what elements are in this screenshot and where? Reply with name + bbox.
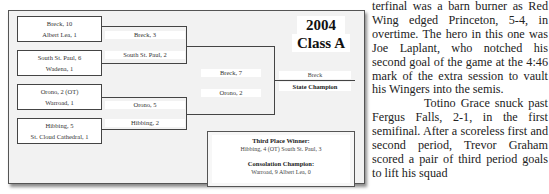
team-winner: Breck, 10 [18,20,101,28]
third-place-heading: Third Place Winner: [212,137,350,144]
quarterfinal-3: Orono, 2 (OT) Warroad, 1 [17,84,102,110]
team-winner: South St. Paul, 6 [18,54,101,62]
bracket-line [102,97,187,98]
team-loser: Warroad, 1 [18,99,101,107]
bracket-line [102,26,187,27]
article-column: terfinal was a barn burner as Red Wing e… [372,0,548,181]
champion-label: State Champion [279,82,351,91]
consolation-result: Warroad, 9 Albert Lea, 0 [212,169,350,175]
bracket-line [102,129,187,130]
bracket-panel: Breck, 10 Albert Lea, 1 South St. Paul, … [8,10,365,184]
final-winner: Breck, 7 [201,69,261,77]
quarterfinal-4: Hibbing, 5 St. Cloud Cathedral, 1 [17,118,102,144]
bracket-year: 2004 [297,16,345,34]
semifinal-2-winner: Orono, 5 [105,101,185,109]
quarterfinal-1: Breck, 10 Albert Lea, 1 [17,16,102,42]
bracket-line [187,46,275,47]
team-winner: Hibbing, 5 [18,122,101,130]
team-loser: Wadena, 1 [18,65,101,73]
bracket-line [102,63,187,64]
team-loser: St. Cloud Cathedral, 1 [18,133,101,141]
article-paragraph: terfinal was a barn burner as Red Wing e… [372,0,548,97]
bracket-line [187,114,275,115]
bracket-line [186,26,187,64]
third-place-result: Hibbing, 4 (OT) South St. Paul, 3 [212,146,350,152]
champion-name: Breck [279,71,351,79]
final-loser: Orono, 2 [201,89,261,97]
team-winner: Orono, 2 (OT) [18,88,101,96]
bracket-line [275,80,355,81]
semifinal-1-loser: South St. Paul, 2 [105,51,185,59]
consolation-heading: Consolation Champion: [212,160,350,167]
team-loser: Albert Lea, 1 [18,31,101,39]
article-paragraph: Totino Grace snuck past Fergus Falls, 2-… [372,97,548,180]
placement-results-box: Third Place Winner: Hibbing, 4 (OT) Sout… [207,131,355,187]
semifinal-1-winner: Breck, 3 [105,31,185,39]
semifinal-2-loser: Hibbing, 2 [105,119,185,127]
quarterfinal-2: South St. Paul, 6 Wadena, 1 [17,50,102,76]
bracket-class: Class A [292,34,350,52]
